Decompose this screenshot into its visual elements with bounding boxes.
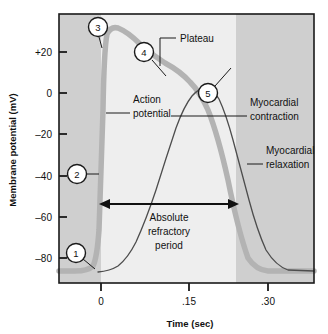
y-axis-title: Membrane potential (mV) (7, 93, 18, 207)
phase-marker-5-label: 5 (205, 88, 210, 99)
label-action-potential-line1: Action (133, 94, 161, 105)
x-axis-ticks (101, 283, 268, 291)
action-potential-figure: +20 0 –20 –40 –60 –80 0 .15 .30 Time (se… (0, 0, 328, 334)
label-action-potential-line2: potential (133, 108, 171, 119)
label-plateau: Plateau (180, 33, 214, 44)
phase-marker-1: 1 (67, 244, 86, 263)
y-tick-label-m20: –20 (35, 129, 52, 140)
y-tick-label-m80: –80 (35, 253, 52, 264)
label-myocardial-relaxation-line1: Myocardial (266, 145, 314, 156)
label-refractory-line1: Absolute (150, 212, 189, 223)
x-tick-label-0: 0 (98, 296, 104, 307)
y-tick-label-m60: –60 (35, 212, 52, 223)
left-shaded-band (59, 14, 101, 283)
label-refractory-line3: period (155, 240, 183, 251)
x-tick-label-15: .15 (182, 296, 196, 307)
y-tick-label-20p: +20 (35, 47, 52, 58)
y-tick-label-0: 0 (46, 88, 52, 99)
phase-marker-5: 5 (199, 84, 218, 103)
phase-marker-3-label: 3 (95, 22, 100, 33)
phase-marker-1-label: 1 (73, 248, 78, 259)
phase-marker-2-label: 2 (74, 169, 79, 180)
label-myocardial-relaxation-line2: relaxation (266, 159, 309, 170)
phase-marker-4-label: 4 (141, 47, 146, 58)
label-refractory-line2: refractory (148, 226, 190, 237)
y-tick-label-m40: –40 (35, 171, 52, 182)
label-myocardial-contraction-line1: Myocardial (250, 97, 298, 108)
phase-marker-4: 4 (135, 43, 154, 62)
x-tick-label-30: .30 (261, 296, 275, 307)
x-axis-title: Time (sec) (167, 318, 214, 329)
chart-svg: +20 0 –20 –40 –60 –80 0 .15 .30 Time (se… (0, 0, 328, 334)
label-myocardial-contraction-line2: contraction (250, 111, 299, 122)
phase-marker-3: 3 (89, 18, 108, 37)
phase-marker-2: 2 (68, 165, 87, 184)
